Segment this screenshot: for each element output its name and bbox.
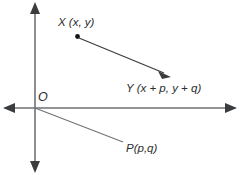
vector-x-to-y (79, 38, 164, 73)
ray-origin-to-p (35, 108, 123, 142)
arrow-down-icon (30, 161, 40, 173)
vector-arrow-icon (158, 71, 171, 79)
vector-diagram-figure: X (x, y) Y (x + p, y + q) O P(p,q) (0, 0, 241, 177)
label-point-p: P(p,q) (126, 143, 157, 155)
label-point-x: X (x, y) (58, 17, 94, 29)
arrow-left-icon (3, 103, 15, 113)
diagram-canvas (0, 0, 241, 177)
label-origin: O (38, 91, 48, 104)
point-dot-icon (75, 34, 80, 39)
arrow-right-icon (225, 103, 237, 113)
arrow-up-icon (30, 2, 40, 14)
label-point-y: Y (x + p, y + q) (126, 83, 201, 95)
